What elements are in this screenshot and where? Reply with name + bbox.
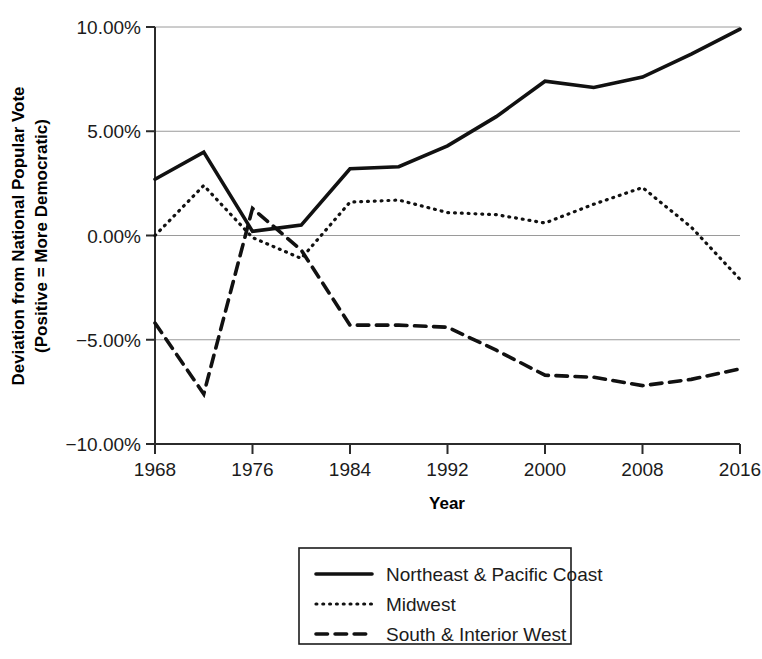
legend-label-1: Midwest bbox=[386, 594, 456, 615]
y-tick-label: 5.00% bbox=[87, 121, 141, 142]
y-axis-title-line2: (Positive = More Democratic) bbox=[32, 119, 51, 353]
deviation-line-chart: Deviation from National Popular Vote (Po… bbox=[0, 0, 762, 659]
y-tick-label: −5.00% bbox=[76, 330, 141, 351]
legend-label-2: South & Interior West bbox=[386, 624, 567, 645]
x-tick-label: 2016 bbox=[719, 459, 761, 480]
x-tick-label: 2000 bbox=[524, 459, 566, 480]
legend: Northeast & Pacific CoastMidwestSouth & … bbox=[299, 548, 603, 645]
chart-figure: Deviation from National Popular Vote (Po… bbox=[0, 0, 762, 659]
x-tick-label: 2008 bbox=[621, 459, 663, 480]
y-axis-title-line1: Deviation from National Popular Vote bbox=[9, 86, 28, 385]
y-tick-label: −10.00% bbox=[65, 434, 141, 455]
legend-label-0: Northeast & Pacific Coast bbox=[386, 564, 603, 585]
x-tick-label: 1992 bbox=[426, 459, 468, 480]
x-tick-label: 1976 bbox=[231, 459, 273, 480]
x-tick-label: 1984 bbox=[329, 459, 372, 480]
y-tick-label: 0.00% bbox=[87, 226, 141, 247]
x-axis-title: Year bbox=[429, 494, 465, 513]
y-tick-label: 10.00% bbox=[77, 17, 142, 38]
x-tick-label: 1968 bbox=[134, 459, 176, 480]
